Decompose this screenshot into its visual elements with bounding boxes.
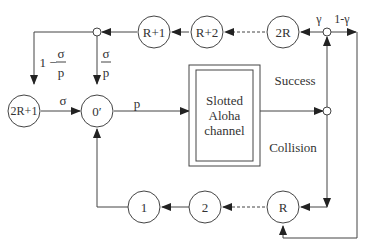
junction-left bbox=[93, 28, 101, 36]
label-one-minus: 1 − bbox=[39, 55, 56, 70]
label-one-minus-sigma-over-p: 1 − σ p bbox=[39, 46, 66, 80]
label-sigma-over-p: σ p bbox=[101, 46, 111, 80]
channel-label-line2: Aloha bbox=[209, 108, 241, 123]
edge-1-to-zero-prime bbox=[97, 129, 128, 207]
node-label: 0′ bbox=[92, 104, 102, 119]
fraction-denominator: p bbox=[58, 65, 65, 80]
fraction-numerator: σ bbox=[57, 46, 64, 61]
junction-top-right bbox=[323, 28, 331, 36]
node-2: 2 bbox=[189, 191, 221, 223]
node-label: 2R bbox=[275, 25, 291, 40]
node-1: 1 bbox=[128, 191, 160, 223]
label-collision: Collision bbox=[269, 140, 317, 155]
label-success: Success bbox=[274, 73, 315, 88]
label-sigma: σ bbox=[59, 93, 66, 108]
channel-label-line1: Slotted bbox=[206, 93, 243, 108]
node-2r-plus-1: 2R+1 bbox=[8, 95, 40, 127]
label-gamma: γ bbox=[315, 12, 322, 26]
fraction-numerator: σ bbox=[102, 46, 109, 61]
node-r: R bbox=[267, 191, 299, 223]
node-label: 1 bbox=[141, 200, 148, 215]
channel-label-line3: channel bbox=[204, 123, 245, 138]
markov-chain-diagram: R+1 R+2 2R 2R+1 0′ 1 2 R Slotted Aloha c… bbox=[0, 0, 375, 251]
label-p: p bbox=[134, 96, 141, 111]
junction-outcome bbox=[323, 107, 331, 115]
node-r-plus-1: R+1 bbox=[138, 16, 170, 48]
label-one-minus-gamma: 1-γ bbox=[334, 12, 350, 26]
node-label: R+2 bbox=[196, 25, 219, 40]
node-r-plus-2: R+2 bbox=[191, 16, 223, 48]
node-label: 2 bbox=[202, 200, 209, 215]
node-zero-prime: 0′ bbox=[81, 95, 113, 127]
node-label: R bbox=[279, 200, 288, 215]
node-2r: 2R bbox=[267, 16, 299, 48]
fraction-denominator: p bbox=[103, 65, 110, 80]
node-label: R+1 bbox=[143, 25, 166, 40]
node-label: 2R+1 bbox=[11, 104, 38, 118]
slotted-aloha-channel-box: Slotted Aloha channel bbox=[189, 65, 260, 166]
